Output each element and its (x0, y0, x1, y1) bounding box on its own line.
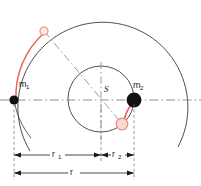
dimension-r: r (14, 166, 134, 179)
m1-body (9, 95, 18, 104)
orbit-tails (15, 104, 31, 138)
orbit-diagram: S m 1 m 2 r 1 (0, 0, 201, 186)
m2-label-group: m 2 (133, 80, 144, 91)
dimension-r1-label: r (52, 149, 55, 159)
dimension-r-arrow-right (127, 170, 134, 175)
m2-label-subscript: 2 (140, 85, 144, 91)
dimension-r1-arrow-right (94, 152, 101, 157)
m1-label-subscript: 1 (26, 84, 30, 90)
m1-ghost-marker (40, 27, 48, 35)
m1-orbit-tail (15, 104, 31, 138)
dimension-r-arrow-left (14, 170, 21, 175)
dimension-r2: r 2 (101, 148, 134, 161)
m2-ghost-marker (116, 118, 128, 130)
figure-canvas: S m 1 m 2 r 1 (0, 0, 201, 186)
dimension-r1-arrow-left (14, 152, 21, 157)
orbit-paths (18, 22, 188, 151)
dimension-r2-arrow-right (127, 152, 134, 157)
dimension-r-label: r (70, 167, 73, 177)
center-of-mass-label: S (104, 84, 109, 94)
m1-label-group: m 1 (19, 79, 30, 90)
dimension-r1: r 1 (14, 148, 101, 161)
dimension-r2-label: r (112, 149, 115, 159)
dimension-r2-arrow-left (101, 152, 108, 157)
axes (0, 31, 201, 140)
diagonal-axis (44, 31, 124, 126)
motion-trails (16, 33, 132, 122)
m1-trail (16, 33, 44, 101)
